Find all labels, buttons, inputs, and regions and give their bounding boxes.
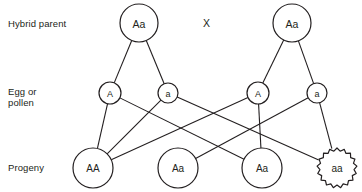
node-label: aa [331,163,343,174]
edge-gamete-right-A-to-progeny-Aa-2 [259,104,261,148]
node-label: Aa [286,18,299,30]
genetics-cross-diagram: AaAaAaAaAAAaAaaa [0,0,362,192]
node-label: AA [86,163,100,174]
edge-gamete-left-A-to-progeny-AA [97,104,107,149]
node-progeny-Aa-2: Aa [242,148,282,188]
node-label: A [255,89,261,99]
node-progeny-aa: aa [317,148,357,188]
node-gamete-left-A: A [99,82,121,104]
node-layer: AaAaAaAaAAAaAaaa [73,4,357,188]
node-progeny-AA: AA [73,148,113,188]
edge-parent-right-to-gamete-right-A [263,40,284,83]
node-label: A [107,89,113,99]
node-label: a [314,89,319,99]
edge-parent-right-to-gamete-right-a [298,41,313,84]
edge-layer [97,40,331,160]
node-parent-left: Aa [120,4,158,42]
node-parent-right: Aa [273,4,311,42]
node-progeny-Aa-1: Aa [158,148,198,188]
edge-gamete-right-a-to-progeny-aa [320,103,332,149]
edge-gamete-left-a-to-progeny-AA [107,100,161,154]
edge-gamete-left-a-to-progeny-aa [177,97,319,160]
node-gamete-right-a: a [307,83,327,103]
node-gamete-right-A: A [247,82,269,104]
node-label: a [165,89,170,99]
edge-gamete-right-a-to-progeny-Aa-1 [196,98,309,159]
node-label: Aa [172,163,185,174]
node-gamete-left-a: a [158,83,178,103]
edge-parent-left-to-gamete-left-A [114,41,132,83]
edge-parent-left-to-gamete-left-a [146,41,164,84]
node-label: Aa [256,163,269,174]
node-label: Aa [133,18,146,30]
